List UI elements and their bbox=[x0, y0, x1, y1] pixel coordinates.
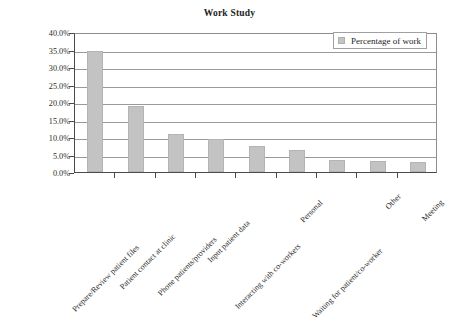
x-axis-tick-mark bbox=[397, 173, 398, 178]
bar bbox=[128, 106, 144, 173]
bar bbox=[87, 51, 103, 172]
x-axis-tick-mark bbox=[276, 173, 277, 178]
y-axis-tick-mark bbox=[69, 33, 74, 34]
bar bbox=[168, 134, 184, 173]
y-axis-tick-mark bbox=[69, 103, 74, 104]
chart-legend: Percentage of work bbox=[333, 32, 427, 49]
bar bbox=[329, 160, 345, 172]
y-axis-tick-mark bbox=[69, 173, 74, 174]
y-axis-tick-mark bbox=[69, 51, 74, 52]
x-axis-tick-label: Meeting bbox=[420, 198, 445, 223]
y-axis-tick-mark bbox=[69, 68, 74, 69]
gridline bbox=[75, 69, 436, 70]
x-axis-tick-label: Personal bbox=[298, 198, 324, 224]
x-axis-tick-label: Interacting with co-workers bbox=[233, 242, 302, 311]
x-axis-tick-mark bbox=[195, 173, 196, 178]
y-axis: 0.0%5.0%10.0%15.0%20.0%25.0%30.0%35.0%40… bbox=[0, 33, 70, 173]
legend-label: Percentage of work bbox=[351, 36, 421, 46]
y-axis-tick-mark bbox=[69, 138, 74, 139]
y-axis-tick-label: 5.0% bbox=[4, 151, 70, 160]
y-axis-tick-label: 30.0% bbox=[4, 64, 70, 73]
bar bbox=[370, 161, 386, 172]
x-axis-tick-mark bbox=[316, 173, 317, 178]
y-axis-tick-label: 10.0% bbox=[4, 134, 70, 143]
y-axis-tick-label: 20.0% bbox=[4, 99, 70, 108]
x-axis-tick-mark bbox=[155, 173, 156, 178]
bar bbox=[410, 162, 426, 173]
y-axis-tick-mark bbox=[69, 86, 74, 87]
bar bbox=[208, 139, 224, 172]
y-axis-tick-label: 40.0% bbox=[4, 29, 70, 38]
y-axis-tick-label: 0.0% bbox=[4, 169, 70, 178]
x-axis-tick-label: Waiting for patient/co-worker bbox=[311, 246, 385, 320]
gridline bbox=[75, 52, 436, 53]
y-axis-tick-mark bbox=[69, 156, 74, 157]
y-axis-tick-mark bbox=[69, 121, 74, 122]
x-axis-tick-mark bbox=[235, 173, 236, 178]
chart-title: Work Study bbox=[0, 8, 459, 18]
bar bbox=[249, 146, 265, 172]
y-axis-tick-label: 25.0% bbox=[4, 81, 70, 90]
y-axis-tick-label: 15.0% bbox=[4, 116, 70, 125]
plot-area bbox=[74, 33, 437, 173]
legend-swatch-icon bbox=[338, 37, 345, 44]
x-axis-tick-mark bbox=[114, 173, 115, 178]
gridline bbox=[75, 87, 436, 88]
x-axis-tick-label: Other bbox=[383, 192, 402, 211]
y-axis-tick-label: 35.0% bbox=[4, 46, 70, 55]
bar bbox=[289, 150, 305, 172]
x-axis-tick-mark bbox=[356, 173, 357, 178]
